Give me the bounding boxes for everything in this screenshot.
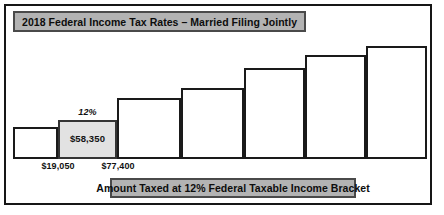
bar-bracket-6 xyxy=(305,55,366,159)
chart-caption-text: Amount Taxed at 12% Federal Taxable Inco… xyxy=(96,182,369,194)
chart-caption-banner: Amount Taxed at 12% Federal Taxable Inco… xyxy=(110,178,356,198)
bar-bracket-2-highlighted: $58,350 xyxy=(58,120,117,159)
bar-bracket-7 xyxy=(366,46,427,159)
tick-label-upper-bound: $77,400 xyxy=(86,161,150,171)
chart-title-banner: 2018 Federal Income Tax Rates – Married … xyxy=(13,11,306,32)
chart-title-text: 2018 Federal Income Tax Rates – Married … xyxy=(22,16,297,28)
tax-bracket-figure: $58,350 12% $19,050 $77,400 2018 Federal… xyxy=(0,0,444,215)
tick-label-lower-bound: $19,050 xyxy=(26,161,90,171)
rate-label-12-percent: 12% xyxy=(58,107,117,117)
bar-bracket-1 xyxy=(13,127,58,159)
bar-bracket-5 xyxy=(244,68,305,159)
bar-bracket-4 xyxy=(181,88,244,159)
bar-amount-label: $58,350 xyxy=(60,133,115,144)
bar-bracket-3 xyxy=(117,98,181,159)
